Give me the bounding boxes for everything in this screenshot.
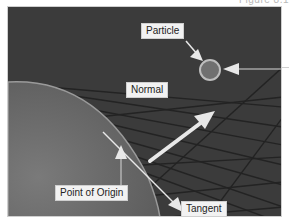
particle-label: Particle (141, 23, 184, 39)
particle-pointer-arrowhead (190, 49, 203, 61)
incoming-arrow-tail (282, 67, 289, 68)
normal-label: Normal (126, 82, 168, 98)
render-frame: Particle Normal Point of Origin Tangent (7, 6, 282, 217)
particle-dot (200, 60, 220, 80)
figure-caption-fragment: Figure 8.1 (239, 0, 289, 5)
tangent-label: Tangent (181, 201, 227, 217)
incoming-arrowhead (223, 63, 239, 75)
point-of-origin-label: Point of Origin (55, 185, 128, 201)
